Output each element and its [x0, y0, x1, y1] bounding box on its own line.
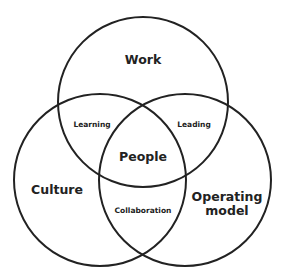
- label-collaboration: Collaboration: [115, 207, 172, 216]
- label-operating-line1: Operating: [192, 190, 263, 204]
- label-culture: Culture: [31, 183, 83, 197]
- label-learning: Learning: [73, 121, 110, 130]
- venn-diagram: [0, 0, 284, 278]
- label-operating-model: Operating model: [192, 190, 263, 219]
- label-people: People: [119, 150, 167, 164]
- label-operating-line2: model: [192, 204, 263, 218]
- label-leading: Leading: [177, 121, 211, 130]
- label-work: Work: [125, 53, 161, 67]
